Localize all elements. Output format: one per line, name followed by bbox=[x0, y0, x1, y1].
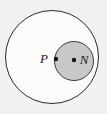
point-dot-n bbox=[72, 58, 76, 62]
point-label-n: N bbox=[79, 52, 90, 67]
point-label-p: P bbox=[39, 51, 48, 66]
point-dot-p bbox=[54, 57, 58, 61]
figure-canvas: P N bbox=[0, 0, 107, 114]
geometry-figure: P N bbox=[0, 0, 107, 114]
